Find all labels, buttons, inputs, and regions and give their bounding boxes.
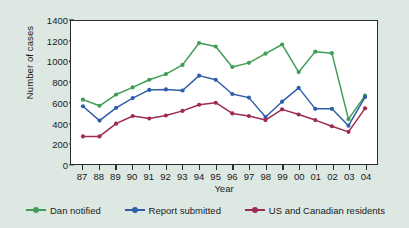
x-tick-label: 04 (354, 171, 378, 182)
legend-marker-icon (125, 206, 145, 214)
data-point (114, 122, 118, 126)
x-tick-mark (349, 165, 350, 170)
data-point (81, 134, 85, 138)
legend-marker-icon (26, 206, 46, 214)
x-tick-mark (232, 165, 233, 170)
x-tick-mark (82, 165, 83, 170)
line-chart: Number of cases 020040060080010001200140… (10, 5, 399, 221)
data-point (297, 112, 301, 116)
legend-item[interactable]: Dan notified (26, 205, 101, 216)
data-point (313, 107, 317, 111)
data-point (214, 101, 218, 105)
data-point (263, 118, 267, 122)
legend-item[interactable]: US and Canadian residents (245, 205, 385, 216)
data-point (197, 74, 201, 78)
x-axis-title: Year (70, 183, 378, 194)
data-point (164, 72, 168, 76)
x-tick-mark (249, 165, 250, 170)
x-tick-mark (366, 165, 367, 170)
x-tick-mark (333, 165, 334, 170)
data-point (297, 70, 301, 74)
legend-label: US and Canadian residents (269, 205, 385, 216)
data-point (297, 86, 301, 90)
y-tick-label: 800 (34, 77, 68, 88)
data-point (214, 78, 218, 82)
data-point (247, 114, 251, 118)
x-tick-mark (316, 165, 317, 170)
x-tick-mark (216, 165, 217, 170)
data-point (363, 106, 367, 110)
y-tick-label: 0 (34, 160, 68, 171)
plot-wrapper: Number of cases 020040060080010001200140… (10, 5, 399, 175)
series-canvas (71, 21, 377, 164)
data-point (280, 42, 284, 46)
data-point (247, 61, 251, 65)
series-line (83, 103, 365, 137)
x-tick-mark (182, 165, 183, 170)
data-point (131, 114, 135, 118)
plot-area (70, 20, 378, 165)
chart-figure: Number of cases 020040060080010001200140… (0, 0, 409, 228)
data-point (214, 44, 218, 48)
legend-marker-icon (245, 206, 265, 214)
data-point (230, 111, 234, 115)
series-us-and-canadian-residents (81, 101, 367, 139)
data-point (81, 98, 85, 102)
x-tick-mark (132, 165, 133, 170)
y-tick-label: 400 (34, 118, 68, 129)
data-point (81, 104, 85, 108)
data-point (197, 103, 201, 107)
data-point (313, 118, 317, 122)
data-point (180, 109, 184, 113)
x-tick-mark (149, 165, 150, 170)
data-point (330, 51, 334, 55)
data-point (97, 134, 101, 138)
x-tick-mark (199, 165, 200, 170)
y-tick-label: 600 (34, 97, 68, 108)
data-point (346, 124, 350, 128)
data-point (247, 96, 251, 100)
legend-label: Report submitted (149, 205, 221, 216)
data-point (263, 52, 267, 56)
data-point (180, 63, 184, 67)
data-point (97, 119, 101, 123)
data-point (280, 100, 284, 104)
data-point (114, 106, 118, 110)
data-point (363, 95, 367, 99)
data-point (313, 50, 317, 54)
x-tick-mark (282, 165, 283, 170)
y-tick-label: 200 (34, 139, 68, 150)
data-point (97, 104, 101, 108)
data-point (180, 88, 184, 92)
data-point (147, 78, 151, 82)
data-point (131, 85, 135, 89)
x-tick-mark (299, 165, 300, 170)
data-point (114, 92, 118, 96)
y-axis-ticks: 0200400600800100012001400 (30, 20, 68, 165)
data-point (346, 117, 350, 121)
data-point (131, 96, 135, 100)
data-point (230, 92, 234, 96)
chart-legend: Dan notifiedReport submittedUS and Canad… (10, 201, 399, 219)
x-tick-mark (166, 165, 167, 170)
legend-label: Dan notified (50, 205, 101, 216)
data-point (147, 116, 151, 120)
data-point (330, 124, 334, 128)
y-tick-label: 1000 (34, 56, 68, 67)
data-point (330, 107, 334, 111)
data-point (346, 130, 350, 134)
x-tick-mark (115, 165, 116, 170)
legend-item[interactable]: Report submitted (125, 205, 221, 216)
data-point (164, 113, 168, 117)
series-line (83, 76, 365, 126)
x-tick-mark (266, 165, 267, 170)
data-point (280, 107, 284, 111)
y-tick-label: 1400 (34, 15, 68, 26)
data-point (197, 41, 201, 45)
y-tick-label: 1200 (34, 35, 68, 46)
data-point (230, 65, 234, 69)
data-point (164, 87, 168, 91)
data-point (147, 88, 151, 92)
x-tick-mark (99, 165, 100, 170)
